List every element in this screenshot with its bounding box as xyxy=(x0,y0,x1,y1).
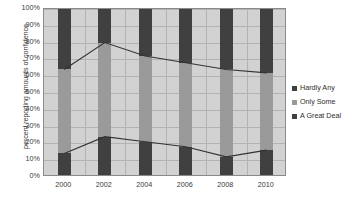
x-axis-tick-label: 2000 xyxy=(41,180,85,189)
legend-label: A Great Deal xyxy=(300,112,341,120)
chart-container: percent reporting amounts of confidence … xyxy=(0,0,355,205)
y-axis-tick-labels: 0%10%20%30%40%50%60%70%80%90%100% xyxy=(12,8,40,176)
y-axis-tick-label: 90% xyxy=(12,21,40,28)
y-axis-tick-label: 10% xyxy=(12,156,40,163)
legend-item: Only Some xyxy=(292,98,354,106)
trend-line xyxy=(64,43,267,73)
y-axis-tick-label: 30% xyxy=(12,122,40,129)
chart-legend: Hardly AnyOnly SomeA Great Deal xyxy=(292,84,354,126)
x-axis-tick-label: 2002 xyxy=(82,180,126,189)
legend-item: Hardly Any xyxy=(292,84,354,92)
y-axis-tick-label: 100% xyxy=(12,4,40,11)
x-axis-tick-label: 2006 xyxy=(163,180,207,189)
y-axis-tick-label: 60% xyxy=(12,72,40,79)
plot-area xyxy=(43,8,286,176)
legend-label: Hardly Any xyxy=(300,84,335,92)
trend-line xyxy=(64,137,267,157)
x-axis-tick-labels: 200020022004200620082010 xyxy=(43,180,286,194)
y-axis-tick-label: 70% xyxy=(12,55,40,62)
legend-item: A Great Deal xyxy=(292,112,354,120)
y-axis-tick-label: 0% xyxy=(12,172,40,179)
x-axis-tick-label: 2008 xyxy=(203,180,247,189)
legend-label: Only Some xyxy=(300,98,336,106)
legend-swatch-icon xyxy=(292,100,297,105)
x-axis-tick-label: 2004 xyxy=(122,180,166,189)
legend-swatch-icon xyxy=(292,114,297,119)
y-axis-tick-label: 20% xyxy=(12,139,40,146)
y-axis-tick-label: 50% xyxy=(12,88,40,95)
y-axis-tick-label: 40% xyxy=(12,105,40,112)
legend-swatch-icon xyxy=(292,86,297,91)
y-axis-tick-label: 80% xyxy=(12,38,40,45)
x-axis-tick-label: 2010 xyxy=(244,180,288,189)
line-overlay-series xyxy=(44,9,286,176)
